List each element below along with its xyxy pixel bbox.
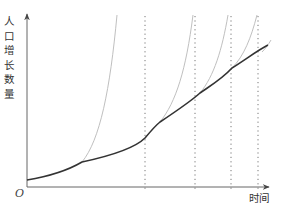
j-curve-1: [82, 15, 117, 162]
origin-label: O: [15, 187, 24, 200]
j-curve-3: [200, 15, 228, 93]
y-label-char: 量: [2, 87, 16, 102]
y-axis-label: 人 口 增 长 数 量: [2, 14, 16, 101]
j-curves: [82, 15, 271, 162]
y-label-char: 人: [2, 14, 16, 29]
j-curve-2: [160, 15, 193, 122]
y-label-char: 口: [2, 29, 16, 44]
actual-growth-curve: [27, 45, 268, 180]
dotted-guides: [145, 16, 258, 190]
population-growth-diagram: [0, 0, 282, 212]
y-label-char: 增: [2, 43, 16, 58]
y-label-char: 长: [2, 58, 16, 73]
x-axis-label: 时间: [249, 190, 269, 205]
y-label-char: 数: [2, 72, 16, 87]
